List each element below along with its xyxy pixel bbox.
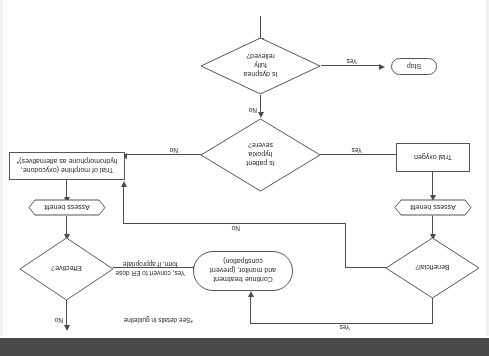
edge-beneficial-no-hline1 <box>346 268 386 269</box>
decision-hypoxia-severe-line2: hypoxia <box>248 151 272 160</box>
edge-beneficial-yes-vline <box>432 298 433 324</box>
process-trial-oxygen-label: Trial oxygen <box>414 153 452 162</box>
start-connector-line <box>260 16 261 38</box>
edge-morphine-to-assess-line <box>66 180 67 197</box>
process-trial-oxygen[interactable]: Trial oxygen <box>396 143 470 172</box>
edge-label-hypoxia-yes: Yes <box>350 147 363 154</box>
edge-assessleft-to-beneficial-line <box>432 216 433 234</box>
process-trial-morphine[interactable]: Trial of morphine (oxycodone, hydromorph… <box>9 152 125 180</box>
decision-dyspnea-relieved-line1: Is dyspnea <box>244 71 278 80</box>
decision-beneficial-line1: Beneficial? <box>415 264 449 273</box>
process-assess-benefit-left[interactable]: Assess benefit <box>394 199 472 216</box>
process-continue-treatment-line3: constipation) <box>223 258 263 267</box>
scanned-page: Is dyspnea fully relieved? Yes Stop No <box>0 0 489 356</box>
edge-label-beneficial-yes: Yes <box>338 324 351 331</box>
decision-effective[interactable]: Effective? <box>19 237 114 301</box>
edge-label-hypoxia-no: No <box>169 147 179 154</box>
footnote-guideline: *See details in guideline <box>124 317 193 324</box>
flowchart-rotated-canvas: Is dyspnea fully relieved? Yes Stop No <box>0 0 489 338</box>
edge-hypoxia-yes-line <box>320 155 396 156</box>
edge-effective-no-arrowhead <box>65 325 71 331</box>
edge-dyspnea-yes-arrowhead <box>379 64 385 70</box>
terminator-stop[interactable]: Stop <box>391 58 437 75</box>
decision-dyspnea-relieved-label: Is dyspnea fully relieved? <box>200 37 321 95</box>
decision-dyspnea-relieved-line3: relieved? <box>246 53 274 62</box>
edge-label-dyspnea-yes: Yes <box>345 58 358 65</box>
flowchart-canvas: Is dyspnea fully relieved? Yes Stop No <box>0 0 489 338</box>
terminator-stop-label: Stop <box>407 62 421 71</box>
edge-label-effective-yes-line1: Yes, convert to ER dose <box>116 269 186 278</box>
edge-hypoxia-no-line <box>125 155 201 156</box>
bottom-band <box>0 338 489 356</box>
process-assess-benefit-right-label: Assess benefit <box>28 199 106 216</box>
edge-label-effective-yes: Yes, convert to ER dose form, if appropr… <box>115 260 187 278</box>
edge-label-beneficial-no: No <box>231 225 241 232</box>
edge-dyspnea-yes-line <box>321 66 379 67</box>
process-assess-benefit-right[interactable]: Assess benefit <box>28 199 106 216</box>
edge-label-effective-yes-line2: form, if appropriate <box>116 260 186 269</box>
process-trial-morphine-line1: Trial of morphine (oxycodone, <box>21 166 113 175</box>
decision-beneficial-label: Beneficial? <box>385 237 480 299</box>
decision-beneficial[interactable]: Beneficial? <box>385 237 480 299</box>
edge-assessright-to-effective-line <box>66 216 67 234</box>
edge-effective-no-line <box>66 300 67 325</box>
edge-beneficial-yes-arrowhead <box>249 291 255 297</box>
decision-hypoxia-severe-label: Is patient hypoxia severe? <box>200 118 321 192</box>
edge-oxygen-to-assess-line <box>432 172 433 195</box>
decision-dyspnea-relieved[interactable]: Is dyspnea fully relieved? <box>200 37 321 95</box>
edge-label-dyspnea-no: No <box>248 107 258 114</box>
decision-hypoxia-severe-line1: Is patient <box>246 160 274 169</box>
edge-dyspnea-no-line <box>260 95 261 112</box>
process-assess-benefit-left-label: Assess benefit <box>394 199 472 216</box>
process-continue-treatment-line2: and monitor, (prevent <box>210 267 276 276</box>
decision-dyspnea-relieved-line2: fully <box>254 62 266 71</box>
decision-effective-line1: Effective? <box>51 265 82 274</box>
decision-hypoxia-severe[interactable]: Is patient hypoxia severe? <box>200 118 321 192</box>
decision-hypoxia-severe-line3: severe? <box>248 142 273 151</box>
edge-beneficial-no-vline <box>345 225 346 269</box>
edge-label-effective-no: No <box>54 317 64 324</box>
process-continue-treatment-line1: Continue treatment <box>213 276 273 285</box>
process-continue-treatment[interactable]: Continue treatment and monitor, (prevent… <box>193 251 293 291</box>
process-trial-morphine-line2: hydromorphone as alternatives)* <box>16 157 117 166</box>
edge-beneficial-no-vline2 <box>123 187 124 225</box>
decision-effective-label: Effective? <box>19 237 114 301</box>
edge-beneficial-no-arrowhead <box>122 181 128 187</box>
edge-beneficial-yes-vline2 <box>250 297 251 324</box>
